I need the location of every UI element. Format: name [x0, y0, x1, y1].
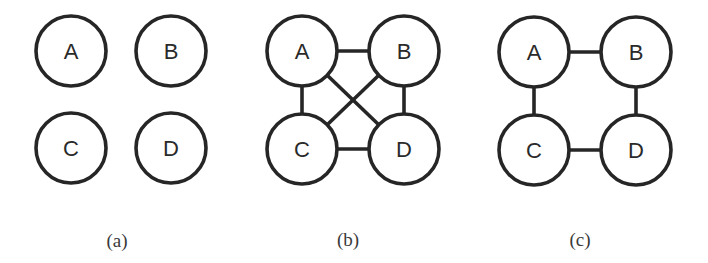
node-c: C — [36, 113, 106, 183]
node-b: B — [136, 16, 206, 86]
panel-b: A B C D (b) — [267, 16, 439, 251]
node-label: D — [628, 138, 644, 163]
node-label: C — [63, 136, 79, 161]
node-d: D — [136, 113, 206, 183]
node-label: B — [397, 39, 412, 64]
node-label: A — [527, 40, 542, 65]
node-label: C — [526, 138, 542, 163]
node-d: D — [601, 115, 671, 185]
node-label: C — [294, 137, 310, 162]
node-d: D — [369, 114, 439, 184]
caption-a: (a) — [106, 230, 127, 252]
caption-b: (b) — [337, 229, 359, 251]
node-label: D — [163, 136, 179, 161]
panel-c: A B C D (c) — [499, 17, 671, 251]
node-label: D — [396, 137, 412, 162]
node-label: A — [64, 39, 79, 64]
caption-c: (c) — [569, 229, 590, 251]
node-label: A — [295, 39, 310, 64]
node-c: C — [499, 115, 569, 185]
node-c: C — [267, 114, 337, 184]
graph-diagram-figure: A B C D (a) A B C — [0, 0, 708, 263]
node-label: B — [629, 40, 644, 65]
node-b: B — [601, 17, 671, 87]
panel-a: A B C D (a) — [36, 16, 206, 252]
node-b: B — [369, 16, 439, 86]
node-label: B — [164, 39, 179, 64]
node-a: A — [267, 16, 337, 86]
node-a: A — [36, 16, 106, 86]
node-a: A — [499, 17, 569, 87]
